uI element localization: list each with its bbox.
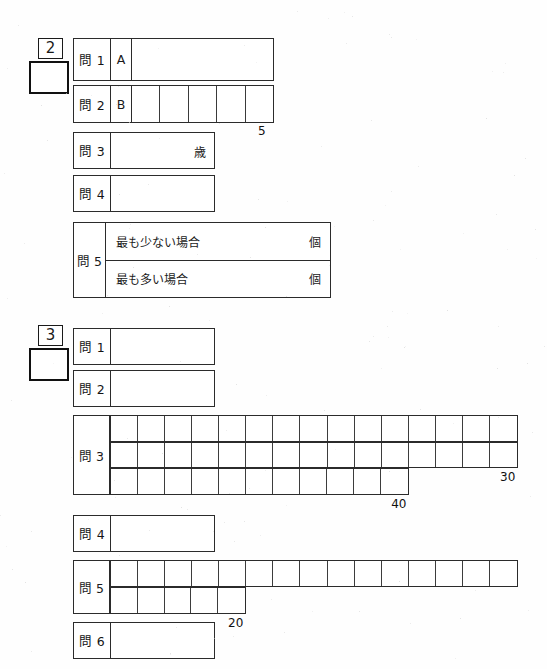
answer-cell[interactable]: [165, 588, 192, 613]
answer-field-s2-q5-min[interactable]: 最も少ない場合 個: [106, 223, 330, 261]
paper-speckle: [149, 530, 150, 531]
answer-cell[interactable]: [165, 469, 192, 494]
answer-field-s3-q2[interactable]: [111, 371, 214, 406]
answer-cell[interactable]: [354, 469, 381, 494]
section-score-box-2[interactable]: [29, 61, 69, 94]
answer-cell[interactable]: [463, 416, 490, 441]
answer-cell[interactable]: [300, 469, 327, 494]
answer-cell[interactable]: [138, 443, 165, 468]
answer-cell[interactable]: [300, 561, 327, 586]
answer-cell[interactable]: [273, 561, 300, 586]
answer-cell[interactable]: [490, 416, 517, 441]
answer-cell[interactable]: [246, 86, 273, 122]
answer-cell[interactable]: [490, 561, 517, 586]
answer-cell[interactable]: [160, 86, 188, 122]
answer-field-s2-q3[interactable]: 歳: [111, 133, 214, 168]
answer-cell[interactable]: [355, 416, 382, 441]
answer-cell[interactable]: [355, 443, 382, 468]
answer-cell[interactable]: [219, 469, 246, 494]
answer-field-s2-q2[interactable]: [132, 86, 273, 122]
answer-cell[interactable]: [436, 443, 463, 468]
answer-cell[interactable]: [409, 416, 436, 441]
paper-speckle: [528, 610, 529, 611]
answer-cell[interactable]: [273, 469, 300, 494]
answer-grid-row: [110, 560, 518, 587]
answer-cell[interactable]: [219, 443, 246, 468]
answer-cell[interactable]: [273, 416, 300, 441]
paper-speckle: [535, 229, 536, 230]
answer-cell[interactable]: [111, 561, 138, 586]
paper-speckle: [346, 43, 347, 44]
paper-speckle: [6, 546, 7, 547]
answer-cell[interactable]: [111, 588, 138, 613]
answer-field-s2-q1[interactable]: [132, 39, 273, 80]
answer-cell[interactable]: [138, 561, 165, 586]
answer-cell[interactable]: [382, 416, 409, 441]
answer-cell[interactable]: [436, 561, 463, 586]
answer-cell[interactable]: [273, 443, 300, 468]
answer-field-s3-q4[interactable]: [111, 516, 214, 551]
answer-cell[interactable]: [192, 561, 219, 586]
answer-cell[interactable]: [463, 561, 490, 586]
answer-cell[interactable]: [192, 416, 219, 441]
answer-cell[interactable]: [246, 469, 273, 494]
answer-cell[interactable]: [191, 588, 218, 613]
answer-cell[interactable]: [246, 416, 273, 441]
answer-cell[interactable]: [328, 443, 355, 468]
answer-cell[interactable]: [219, 416, 246, 441]
answer-cell[interactable]: [490, 443, 517, 468]
answer-cell[interactable]: [328, 416, 355, 441]
answer-field-s3-q6[interactable]: [111, 623, 214, 658]
paper-speckle: [297, 11, 298, 12]
answer-cell[interactable]: [381, 469, 408, 494]
paper-speckle: [129, 122, 130, 123]
answer-cell[interactable]: [355, 561, 382, 586]
answer-cell[interactable]: [217, 86, 245, 122]
answer-cell[interactable]: [132, 86, 160, 122]
answer-field-s2-q4[interactable]: [111, 176, 214, 211]
paper-speckle: [24, 243, 25, 244]
answer-cell[interactable]: [409, 561, 436, 586]
answer-field-s3-q1[interactable]: [111, 329, 214, 364]
answer-cell[interactable]: [246, 561, 273, 586]
answer-cell[interactable]: [382, 561, 409, 586]
paper-speckle: [498, 326, 499, 327]
answer-cell[interactable]: [192, 469, 219, 494]
answer-cell[interactable]: [328, 561, 355, 586]
character-count-label: 30: [500, 470, 515, 484]
answer-row-s3-q4: 問 4: [73, 515, 215, 552]
answer-cell[interactable]: [138, 416, 165, 441]
paper-speckle: [236, 384, 237, 385]
paper-speckle: [127, 438, 128, 439]
answer-cell[interactable]: [300, 443, 327, 468]
answer-cell[interactable]: [219, 561, 246, 586]
answer-cell[interactable]: [189, 86, 217, 122]
paper-speckle: [209, 320, 210, 321]
answer-cell[interactable]: [138, 588, 165, 613]
paper-speckle: [420, 409, 421, 410]
answer-cell[interactable]: [111, 416, 138, 441]
answer-cell[interactable]: [300, 416, 327, 441]
section-score-box-3[interactable]: [29, 348, 69, 381]
answer-cell[interactable]: [327, 469, 354, 494]
answer-field-s2-q5-max[interactable]: 最も多い場合 個: [106, 261, 330, 298]
answer-cell[interactable]: [409, 443, 436, 468]
answer-cell[interactable]: [165, 561, 192, 586]
answer-cell[interactable]: [382, 443, 409, 468]
answer-cell[interactable]: [246, 443, 273, 468]
answer-cell[interactable]: [192, 443, 219, 468]
answer-cell[interactable]: [138, 469, 165, 494]
question-label-s3-q2: 問 2: [74, 371, 111, 406]
answer-cell[interactable]: [111, 469, 138, 494]
answer-cell[interactable]: [165, 416, 192, 441]
paper-speckle: [389, 34, 390, 35]
answer-cell[interactable]: [111, 443, 138, 468]
paper-speckle: [25, 582, 26, 583]
answer-cell[interactable]: [165, 443, 192, 468]
answer-cell[interactable]: [436, 416, 463, 441]
answer-cell[interactable]: [463, 443, 490, 468]
question-label-s2-q2: 問 2: [74, 86, 111, 122]
unit-label-s2-q5-min: 個: [309, 233, 321, 250]
answer-cell[interactable]: [218, 588, 245, 613]
question-label-s2-q4: 問 4: [74, 176, 111, 211]
